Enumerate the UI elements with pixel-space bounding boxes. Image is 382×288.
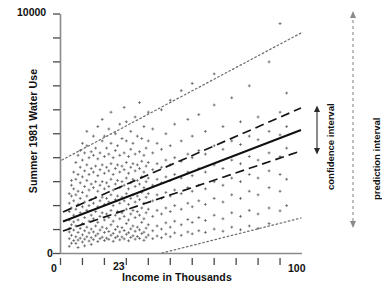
x-axis-tick-label-100: 100 bbox=[288, 262, 306, 274]
x-axis-title: Income in Thousands bbox=[122, 271, 232, 283]
x-axis-tick-label-23: 23 bbox=[113, 260, 125, 272]
prediction-interval-arrow bbox=[350, 11, 356, 228]
y-axis-tick-label-max: 10000 bbox=[17, 6, 46, 18]
prediction-interval-lower-line bbox=[162, 218, 301, 253]
confidence-interval-upper-line bbox=[63, 108, 301, 212]
y-axis-tick-label-min: 0 bbox=[47, 247, 53, 259]
confidence-interval-arrow bbox=[314, 106, 320, 155]
confidence-interval-label: confidence interval bbox=[325, 103, 336, 190]
x-axis-tick-label-0: 0 bbox=[51, 262, 57, 274]
y-axis-title: Summer 1981 Water Use bbox=[27, 51, 39, 211]
prediction-interval-label: prediction interval bbox=[371, 118, 382, 200]
axes-group bbox=[60, 14, 302, 254]
scatter-points bbox=[68, 22, 288, 249]
x-axis-ticks bbox=[61, 258, 281, 265]
y-axis-ticks bbox=[53, 14, 60, 254]
